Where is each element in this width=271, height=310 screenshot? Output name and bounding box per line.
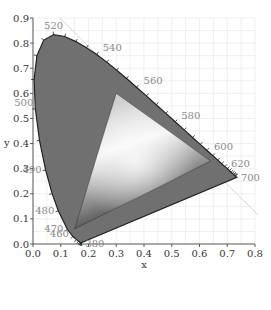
x-tick-label: 0.3 [108,248,124,259]
wavelength-label-700: 700 [241,172,260,183]
locus-tick [193,135,195,137]
locus-tick [146,94,148,96]
wavelength-label-620: 620 [231,158,250,169]
chromaticity-chart: 0.00.10.20.30.40.50.60.70.80.00.10.20.30… [0,0,271,310]
y-tick-label: 0.0 [13,239,29,250]
locus-tick [231,170,233,172]
x-tick-label: 0.2 [81,248,97,259]
x-tick-label: 0.1 [53,248,69,259]
x-tick-label: 0.4 [136,248,152,259]
y-tick-label: 0.4 [13,138,29,149]
locus-tick [166,111,168,113]
wavelength-label-480: 480 [35,205,54,216]
locus-tick [233,171,235,173]
locus-tick [127,76,129,78]
locus-tick [207,148,209,150]
wavelength-label-520: 520 [44,20,63,31]
x-axis-title: x [141,259,147,270]
x-tick-label: 0.5 [164,248,180,259]
wavelength-label-500: 500 [14,97,33,108]
y-tick-label: 0.1 [13,213,29,224]
y-tick-label: 0.9 [13,13,29,24]
locus-tick [97,52,99,54]
locus-tick [77,241,79,243]
y-tick-label: 0.5 [13,113,29,124]
locus-tick [107,60,109,62]
y-tick-label: 0.8 [13,38,29,49]
wavelength-label-600: 600 [214,141,233,152]
locus-tick [71,237,73,239]
locus-tick [137,85,139,87]
locus-tick [225,164,227,166]
wavelength-label-490: 490 [23,164,42,175]
locus-tick [76,39,77,42]
locus-tick [41,38,43,40]
y-tick-label: 0.7 [13,63,29,74]
x-tick-label: 0.7 [219,248,235,259]
x-tick-label: 0.6 [192,248,208,259]
y-tick-label: 0.2 [13,188,29,199]
wavelength-label-470: 470 [44,223,63,234]
wavelength-label-540: 540 [103,42,122,53]
locus-tick [222,161,224,163]
wavelength-label-560: 560 [144,75,163,86]
locus-tick [65,34,66,37]
wavelength-label-380: 380 [85,238,104,249]
y-axis-title: y [3,137,10,148]
wavelength-label-580: 580 [181,110,200,121]
x-tick-label: 0.8 [247,248,263,259]
locus-tick [53,32,54,35]
x-tick-label: 0.0 [25,248,41,259]
locus-tick [56,211,59,212]
locus-tick [175,120,177,122]
locus-tick [218,158,220,160]
